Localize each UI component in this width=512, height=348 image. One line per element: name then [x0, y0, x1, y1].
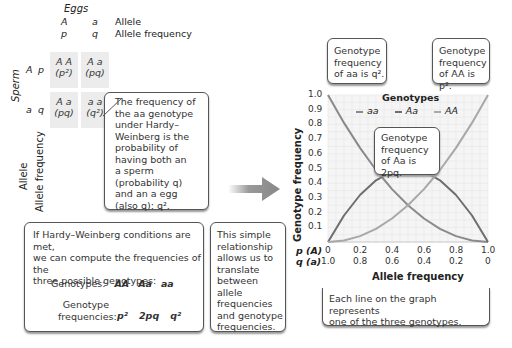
callout-line: one of the three genotypes. [329, 316, 489, 328]
x-tick: 0.8 [449, 245, 463, 255]
legend-label: aa [367, 105, 379, 116]
callout-line: of Aa is 2pq. [381, 155, 439, 178]
x-tick: 0.6 [417, 245, 431, 255]
y-axis-label: Genotype frequency [292, 128, 303, 242]
callout-Aa-curve: Genotype frequency of Aa is 2pq. [374, 127, 440, 175]
callout-line: Genotype [381, 132, 439, 144]
legend-item-Aa: Aa [395, 105, 418, 116]
x-tick: 0.2 [353, 245, 367, 255]
x-tick: 0.4 [417, 256, 431, 266]
y-tick: 0.3 [308, 192, 322, 202]
x-tick: 0.4 [385, 245, 399, 255]
x-tick: 0 [325, 245, 331, 255]
y-tick: 0.2 [308, 207, 322, 217]
legend-swatch [356, 111, 363, 113]
legend: aa Aa AA [356, 105, 458, 116]
callout-line: frequency [381, 144, 439, 156]
y-tick: 0.4 [308, 177, 322, 187]
legend-label: AA [445, 105, 458, 116]
y-tick: 0.9 [308, 104, 322, 114]
x-tick: 1.0 [481, 245, 495, 255]
x-tick: 0.2 [449, 256, 463, 266]
y-tick: 0.6 [308, 148, 322, 158]
legend-swatch [434, 111, 441, 113]
x-tick: 1.0 [321, 256, 335, 266]
legend-swatch [395, 111, 402, 113]
legend-item-AA: AA [434, 105, 458, 116]
x-axis-label: Allele frequency [372, 271, 464, 282]
legend-item-aa: aa [356, 105, 379, 116]
y-tick: 1.0 [308, 89, 322, 99]
y-tick: 0.8 [308, 118, 322, 128]
x-tick: 0.8 [353, 256, 367, 266]
callout-line: Each line on the graph represents [329, 293, 489, 316]
legend-title: Genotypes [382, 92, 439, 103]
callout-each-line: Each line on the graph represents one of… [322, 288, 490, 326]
x-row-label-q: q (a) [296, 256, 321, 267]
x-tick: 0 [485, 256, 491, 266]
y-tick: 0.7 [308, 133, 322, 143]
x-tick: 0.6 [385, 256, 399, 266]
y-tick: 0.5 [308, 163, 322, 173]
x-row-label-p: p (A) [296, 245, 322, 256]
legend-label: Aa [406, 105, 418, 116]
y-tick: 0.1 [308, 221, 322, 231]
